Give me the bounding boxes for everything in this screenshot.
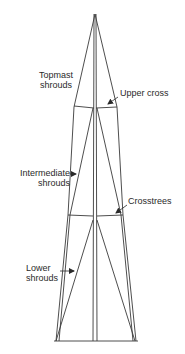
crosstrees-arrow — [116, 205, 127, 213]
lower-shrouds-label-line1: Lower — [26, 263, 58, 273]
intermediate-shrouds-label-line2: shrouds — [2, 178, 70, 188]
intermediate-shrouds-label-line1: Intermediate — [2, 168, 70, 178]
topmast-shrouds-label: Topmast shrouds — [36, 70, 76, 90]
upper-crosstrees — [74, 106, 117, 108]
mast — [93, 14, 97, 341]
lower-crosstrees — [68, 215, 123, 216]
crosstrees-label: Crosstrees — [128, 196, 172, 206]
lower-shrouds-label-line2: shrouds — [26, 273, 58, 283]
lower-shrouds-label: Lower shrouds — [26, 263, 58, 283]
topmast-shrouds-label-line1: Topmast — [36, 70, 76, 80]
topmast-shrouds-label-line2: shrouds — [36, 80, 76, 90]
upper-cross-label: Upper cross — [120, 88, 169, 98]
intermediate-shrouds-label: Intermediate shrouds — [2, 168, 70, 188]
